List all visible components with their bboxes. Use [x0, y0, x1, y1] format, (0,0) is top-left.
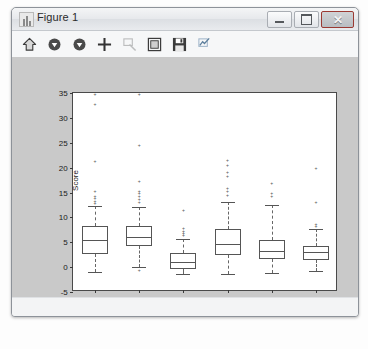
y-tick-mark: [70, 193, 73, 194]
window-status-strip: [12, 297, 358, 316]
whisker-cap-upper: [88, 206, 102, 207]
figure-window: Figure 1 ✕: [11, 7, 359, 317]
y-tick-mark: [70, 118, 73, 119]
outlier-marker: +: [138, 92, 141, 96]
y-tick-label: 5: [63, 238, 67, 247]
x-tick-mark: [95, 290, 96, 293]
whisker-cap-upper: [265, 205, 279, 206]
outlier-marker: +: [138, 189, 141, 193]
y-tick-mark: [70, 242, 73, 243]
outlier-marker: +: [314, 222, 317, 226]
minimize-icon: [275, 21, 284, 23]
y-tick-label: 25: [59, 138, 68, 147]
y-tick-mark: [70, 168, 73, 169]
window-title: Figure 1: [37, 11, 78, 23]
outlier-marker: +: [182, 226, 185, 230]
x-tick-mark: [272, 290, 273, 293]
whisker-cap-lower: [88, 272, 102, 273]
window-titlebar[interactable]: Figure 1 ✕: [12, 8, 358, 31]
median-line: [303, 252, 329, 253]
whisker-line-lower: [316, 260, 317, 271]
matplotlib-icon: [19, 12, 34, 27]
outlier-marker: +: [94, 194, 97, 198]
y-tick-mark: [70, 217, 73, 218]
whisker-line-lower: [95, 254, 96, 272]
whisker-line-upper: [139, 207, 140, 226]
configure-subplots-icon[interactable]: [146, 36, 163, 53]
minimize-button[interactable]: [267, 11, 292, 28]
median-line: [82, 240, 108, 241]
outlier-marker: +: [226, 193, 229, 197]
outlier-marker: +: [314, 166, 317, 170]
whisker-cap-upper: [221, 202, 235, 203]
outlier-marker: +: [138, 143, 141, 147]
zoom-icon[interactable]: [121, 36, 138, 53]
outlier-marker: +: [226, 163, 229, 167]
whisker-line-upper: [228, 202, 229, 229]
outlier-marker: +: [270, 181, 273, 185]
outlier-marker: +: [94, 102, 97, 106]
save-icon[interactable]: [171, 36, 188, 53]
whisker-line-lower: [139, 246, 140, 267]
y-tick-mark: [70, 93, 73, 94]
whisker-line-upper: [272, 205, 273, 240]
outlier-marker: +: [94, 159, 97, 163]
outlier-marker: +: [138, 268, 141, 272]
navigation-toolbar: [12, 31, 358, 58]
maximize-icon: [301, 14, 312, 25]
x-tick-mark: [228, 290, 229, 293]
outlier-marker: +: [182, 208, 185, 212]
outlier-marker: +: [314, 200, 317, 204]
whisker-cap-upper: [132, 207, 146, 208]
whisker-line-lower: [272, 259, 273, 273]
whisker-cap-upper: [176, 239, 190, 240]
outlier-marker: +: [138, 179, 141, 183]
box[interactable]: [126, 226, 152, 245]
maximize-button[interactable]: [294, 11, 319, 28]
y-tick-label: 20: [59, 163, 68, 172]
outlier-marker: +: [226, 170, 229, 174]
median-line: [259, 251, 285, 252]
whisker-cap-lower: [265, 273, 279, 274]
whisker-line-upper: [316, 229, 317, 245]
window-controls: ✕: [267, 11, 354, 28]
y-axis-label: Score: [71, 131, 80, 231]
y-tick-label: 15: [59, 188, 68, 197]
edit-curves-icon[interactable]: [196, 36, 213, 53]
whisker-cap-lower: [176, 274, 190, 275]
forward-arrow-icon[interactable]: [71, 36, 88, 53]
median-line: [215, 244, 241, 245]
outlier-marker: +: [226, 158, 229, 162]
screen-root: Figure 1 ✕: [0, 0, 368, 349]
outlier-marker: +: [270, 191, 273, 195]
y-tick-mark: [70, 292, 73, 293]
x-tick-mark: [139, 290, 140, 293]
x-tick-mark: [316, 290, 317, 293]
home-icon[interactable]: [21, 36, 38, 53]
whisker-cap-lower: [221, 274, 235, 275]
y-tick-label: 0: [63, 263, 67, 272]
back-arrow-icon[interactable]: [46, 36, 63, 53]
box[interactable]: [215, 229, 241, 255]
boxplot-axes[interactable]: Score Attribute -505101520253035123456++…: [72, 92, 337, 291]
y-tick-mark: [70, 267, 73, 268]
outlier-marker: +: [226, 186, 229, 190]
pan-icon[interactable]: [96, 36, 113, 53]
figure-canvas[interactable]: Score Attribute -505101520253035123456++…: [12, 57, 358, 297]
whisker-line-upper: [95, 206, 96, 225]
whisker-line-upper: [183, 239, 184, 253]
whisker-cap-lower: [309, 271, 323, 272]
whisker-cap-upper: [309, 229, 323, 230]
x-tick-mark: [183, 290, 184, 293]
close-icon: ✕: [333, 14, 343, 26]
median-line: [170, 262, 196, 263]
y-tick-label: -5: [61, 288, 68, 297]
y-tick-label: 35: [59, 89, 68, 98]
box[interactable]: [259, 240, 285, 259]
outlier-marker: +: [94, 189, 97, 193]
close-button[interactable]: ✕: [321, 11, 354, 28]
y-tick-mark: [70, 143, 73, 144]
y-tick-label: 10: [59, 213, 68, 222]
outlier-marker: +: [94, 92, 97, 96]
y-tick-label: 30: [59, 113, 68, 122]
